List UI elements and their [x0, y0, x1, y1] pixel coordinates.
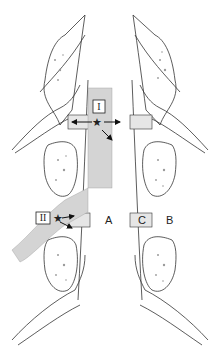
svg-text:II: II — [40, 212, 47, 223]
zone-one-label: I — [93, 100, 105, 113]
zone-two-label: II — [36, 212, 50, 224]
spine-diagram: I ★ II ★ A C B — [0, 0, 220, 357]
region-c-label: C — [138, 214, 146, 226]
left-column — [12, 15, 88, 345]
region-a-label: A — [105, 214, 113, 226]
region-b-label: B — [166, 214, 173, 226]
right-column — [132, 15, 208, 345]
star-marker-one: ★ — [92, 116, 102, 128]
svg-text:I: I — [97, 101, 100, 112]
